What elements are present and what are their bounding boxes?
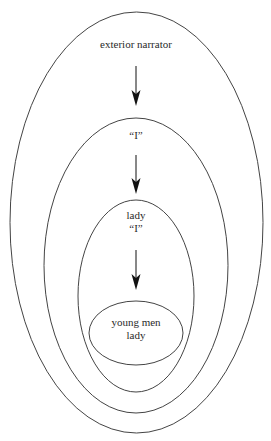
label-line: “I” — [129, 129, 142, 142]
label-young-men-lady: young men lady — [111, 316, 160, 342]
label-exterior-narrator: exterior narrator — [100, 38, 172, 51]
label-line: exterior narrator — [100, 38, 172, 51]
arrow-3-down-icon — [132, 250, 141, 290]
label-line: lady — [111, 329, 160, 342]
label-line: lady — [127, 209, 146, 222]
label-lady-i: lady “I” — [127, 209, 146, 235]
label-line: “I” — [127, 222, 146, 235]
arrow-2-down-icon — [132, 155, 141, 194]
label-i: “I” — [129, 129, 142, 142]
label-line: young men — [111, 316, 160, 329]
arrow-1-down-icon — [132, 66, 141, 106]
